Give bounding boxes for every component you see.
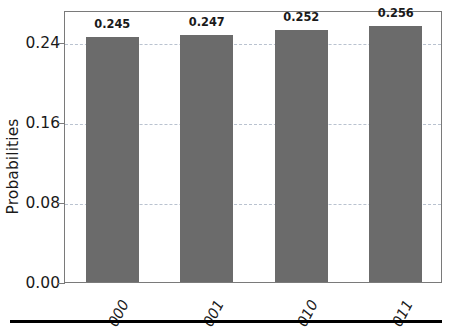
y-axis-tick-label: 0.08 xyxy=(25,194,60,212)
x-axis-tick-label: 000 xyxy=(24,297,132,333)
bar-chart-figure: Probabilities 0.000.080.160.24 0.2450.24… xyxy=(0,0,452,333)
plot-area: 0.2450.2470.2520.256 xyxy=(64,11,442,283)
bar xyxy=(86,37,139,282)
bar xyxy=(369,26,422,282)
y-axis-tick-group: 0.000.080.160.24 xyxy=(0,11,60,283)
bar-value-label: 0.252 xyxy=(283,10,319,24)
bar-value-label: 0.247 xyxy=(189,15,225,29)
bar xyxy=(180,35,233,282)
x-axis-tick-label: 001 xyxy=(119,297,227,333)
horizontal-rule xyxy=(10,320,442,323)
x-axis-tick-label: 011 xyxy=(308,297,416,333)
y-axis-tick-label: 0.24 xyxy=(25,34,60,52)
y-axis-tick-mark xyxy=(58,283,65,284)
y-axis-tick-label: 0.16 xyxy=(25,114,60,132)
bar-value-label: 0.245 xyxy=(94,17,130,31)
bar-value-label: 0.256 xyxy=(378,6,414,20)
x-axis-tick-label: 010 xyxy=(213,297,321,333)
y-axis-tick-label: 0.00 xyxy=(25,274,60,292)
bar xyxy=(275,30,328,282)
